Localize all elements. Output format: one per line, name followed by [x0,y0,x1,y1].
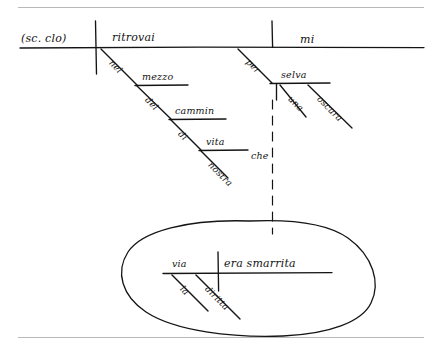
word-relative-verb-era-smarrita: era smarrita [224,257,296,270]
word-mezzo: mezzo [142,71,173,82]
line-selva [270,83,330,84]
line-mezzo [135,85,188,86]
line-cammin [169,119,226,120]
relative-subject-verb-divider [218,252,219,291]
line-vita [199,150,248,151]
word-verb-ritrovai: ritrovai [112,31,155,44]
relative-clause-baseline [163,273,332,274]
clause-oval [122,221,376,337]
word-object-mi: mi [300,33,314,46]
slant-la [172,275,208,311]
main-baseline [20,47,424,48]
word-vita: vita [206,136,225,147]
word-relative-subject-via: via [172,258,187,269]
word-subject-sc-clo: (sc. clo) [21,32,66,45]
word-connector-che: che [251,150,269,161]
verb-object-divider [272,21,273,47]
word-selva: selva [281,69,307,80]
word-cammin: cammin [175,105,214,116]
diagram-page: (sc. clo) ritrovai mi nel mezzo del camm… [0,0,442,352]
subject-verb-divider [96,21,97,74]
